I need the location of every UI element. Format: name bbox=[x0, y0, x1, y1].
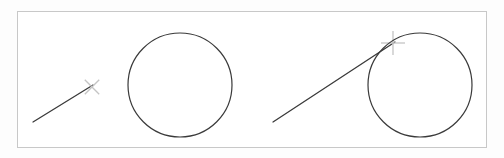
figure-canvas bbox=[0, 0, 504, 158]
geometry-figure bbox=[0, 0, 504, 158]
drawing-frame-border bbox=[18, 12, 487, 148]
